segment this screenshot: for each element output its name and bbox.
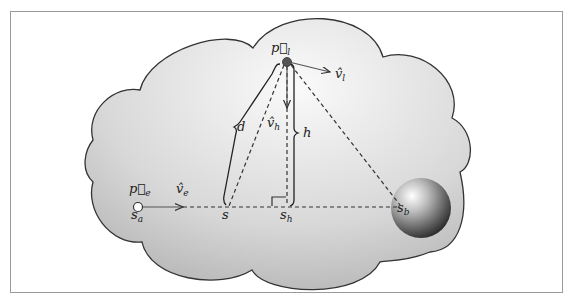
cloud-rendering-diagram: p⃗e sa v̂e s sh sb p⃗l v̂l v̂h d h — [0, 0, 571, 299]
label-h: h — [303, 125, 311, 140]
label-s: s — [222, 207, 229, 222]
light-point — [283, 58, 292, 67]
label-d: d — [237, 119, 245, 134]
